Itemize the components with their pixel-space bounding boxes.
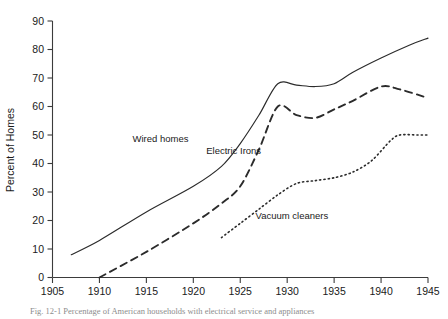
x-tick-label: 1930 (276, 285, 300, 297)
figure-caption: Fig. 12-1 Percentage of American househo… (30, 306, 435, 317)
series-label-group: Wired homesElectric IronsVacuum cleaners (132, 133, 328, 221)
y-tick-label: 50 (32, 129, 44, 141)
x-tick-label: 1915 (135, 285, 159, 297)
y-axis-title: Percent of Homes (4, 108, 16, 192)
x-tick-label: 1945 (416, 285, 440, 297)
line-chart: 0102030405060708090 Percent of Homes 190… (0, 0, 448, 319)
series-label-electric-irons: Electric Irons (206, 145, 261, 156)
y-tick-label: 20 (32, 214, 44, 226)
y-tick-label: 80 (32, 43, 44, 55)
x-tick-group: 190519101915192019251930193519401945 (41, 278, 440, 298)
y-tick-group: 0102030405060708090 (32, 15, 52, 284)
y-tick-label: 90 (32, 15, 44, 27)
x-tick-label: 1920 (182, 285, 206, 297)
y-tick-label: 10 (32, 243, 44, 255)
y-tick-label: 30 (32, 186, 44, 198)
y-tick-label: 70 (32, 72, 44, 84)
x-tick-label: 1925 (229, 285, 253, 297)
x-tick-label: 1940 (369, 285, 393, 297)
y-tick-label: 40 (32, 157, 44, 169)
figure-container: 0102030405060708090 Percent of Homes 190… (0, 0, 448, 319)
x-tick-label: 1935 (322, 285, 346, 297)
y-tick-label: 0 (38, 271, 44, 283)
series-label-vacuum-cleaners: Vacuum cleaners (256, 210, 329, 221)
series-label-wired-homes: Wired homes (132, 133, 188, 144)
x-tick-label: 1910 (88, 285, 112, 297)
series-group (71, 38, 428, 277)
y-axis: 0102030405060708090 Percent of Homes (4, 15, 53, 284)
y-tick-label: 60 (32, 100, 44, 112)
series-line-electric-irons (99, 86, 428, 277)
x-tick-label: 1905 (41, 285, 65, 297)
x-axis: 190519101915192019251930193519401945 (41, 278, 440, 298)
